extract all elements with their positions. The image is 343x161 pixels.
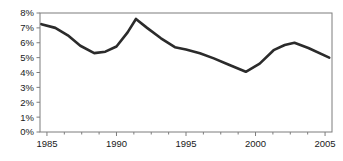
y-tick-label: 4%	[20, 67, 34, 78]
y-tick-label: 8%	[20, 7, 34, 18]
y-axis-labels: 0%1%2%3%4%5%6%7%8%	[20, 7, 34, 137]
y-tick-label: 2%	[20, 97, 34, 108]
x-tick-label: 1990	[106, 138, 127, 149]
chart-canvas: 0%1%2%3%4%5%6%7%8% 19851990199520002005	[0, 0, 343, 161]
x-tick-label: 1985	[36, 138, 57, 149]
plot-frame	[40, 13, 332, 132]
x-tick-label: 2005	[314, 138, 335, 149]
plot-area-border	[40, 13, 332, 132]
x-tick-label: 2000	[245, 138, 266, 149]
x-axis-ticks	[47, 132, 325, 136]
x-tick-label: 1995	[175, 138, 196, 149]
y-tick-label: 5%	[20, 52, 34, 63]
y-tick-label: 0%	[20, 126, 34, 137]
line-chart: 0%1%2%3%4%5%6%7%8% 19851990199520002005	[0, 0, 343, 161]
y-tick-label: 6%	[20, 37, 34, 48]
y-tick-label: 7%	[20, 22, 34, 33]
x-axis-labels: 19851990199520002005	[36, 138, 335, 149]
y-axis-ticks	[37, 13, 41, 132]
y-tick-label: 1%	[20, 112, 34, 123]
y-tick-label: 3%	[20, 82, 34, 93]
